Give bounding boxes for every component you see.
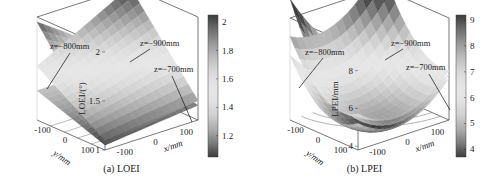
panel-lpei: 468LPEI/mm1000-100-1000100y/mmx/mmz=−800… <box>243 0 486 189</box>
x-tick-label: 0 <box>153 137 158 147</box>
colorbar <box>456 15 466 157</box>
annotation-z=-900mm: z=−900mm <box>140 38 180 48</box>
colorbar-tick-label: 1.2 <box>222 131 233 141</box>
x-tick-label: -100 <box>369 147 386 157</box>
annotation-z=-900mm: z=−900mm <box>391 38 431 48</box>
y-tick-label: 100 <box>81 145 95 155</box>
colorbar-tick-label: 9 <box>470 15 475 25</box>
colorbar-tick-label: 1.8 <box>222 46 234 56</box>
colorbar-tick-label: 1.6 <box>222 74 234 84</box>
chart-lpei: 468LPEI/mm1000-100-1000100y/mmx/mmz=−800… <box>243 0 486 189</box>
caption-loei: (a) LOEI <box>0 163 243 174</box>
z-tick-label: 2 <box>96 47 101 57</box>
z-axis-label: LPEI/mm <box>330 81 340 117</box>
colorbar-tick-label: 7 <box>470 67 475 77</box>
colorbar-tick-label: 2 <box>222 17 227 27</box>
annotation-z=-800mm: z=−800mm <box>50 41 90 51</box>
x-tick-label: -100 <box>117 147 134 157</box>
colorbar-tick-label: 8 <box>470 41 475 51</box>
x-tick-label: 100 <box>179 127 193 137</box>
colorbar-tick-label: 4 <box>470 144 475 154</box>
annotation-z=-800mm: z=−800mm <box>305 47 345 57</box>
y-tick-label: -100 <box>34 125 51 135</box>
annotation-z=-700mm: z=−700mm <box>406 62 446 72</box>
z-tick-label: 1.5 <box>89 96 101 106</box>
x-axis-label: x/mm <box>413 138 436 155</box>
x-tick-label: 0 <box>405 137 410 147</box>
y-tick-label: -100 <box>287 125 304 135</box>
z-tick-label: 4 <box>349 141 354 151</box>
colorbar-tick-label: 5 <box>470 118 475 128</box>
chart-loei: 11.52LOEI/(°)1000-100-1000100y/mmx/mmz=−… <box>0 0 243 189</box>
y-tick-label: 0 <box>316 135 321 145</box>
annotation-z=-700mm: z=−700mm <box>154 64 194 74</box>
y-tick-label: 0 <box>63 135 68 145</box>
colorbar-tick-label: 6 <box>470 93 475 103</box>
z-tick-label: 6 <box>349 103 354 113</box>
panel-loei: 11.52LOEI/(°)1000-100-1000100y/mmx/mmz=−… <box>0 0 243 189</box>
z-tick-label: 8 <box>349 66 354 76</box>
floor-contour <box>51 119 74 127</box>
y-tick-label: 100 <box>334 145 348 155</box>
x-tick-label: 100 <box>431 127 445 137</box>
x-axis-label: x/mm <box>161 138 184 155</box>
z-tick-label: 1 <box>96 145 101 155</box>
caption-lpei: (b) LPEI <box>243 163 486 174</box>
colorbar-tick-label: 1.4 <box>222 102 234 112</box>
z-axis-label: LOEI/(°) <box>77 82 87 115</box>
